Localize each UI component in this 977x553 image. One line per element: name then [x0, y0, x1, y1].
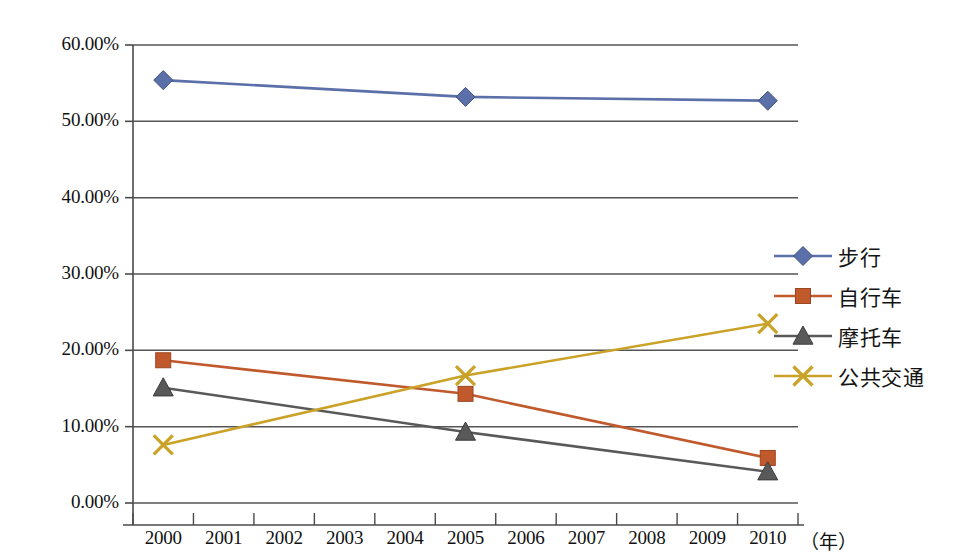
- x-axis-tick-label: 2003: [314, 527, 374, 549]
- y-axis-tick-label: 60.00%: [20, 33, 119, 55]
- data-point-marker: [154, 71, 173, 90]
- legend-item[interactable]: 公共交通: [772, 356, 972, 396]
- y-axis-tick-label: 40.00%: [20, 186, 119, 208]
- x-axis-tick-label: 2006: [496, 527, 556, 549]
- line-chart: 60.00%50.00%40.00%30.00%20.00%10.00%0.00…: [0, 0, 977, 553]
- data-point-marker: [758, 91, 777, 110]
- legend-label: 步行: [838, 241, 881, 271]
- axis-lines: [123, 45, 804, 525]
- data-series: [153, 71, 778, 480]
- y-axis-tick-label: 20.00%: [20, 338, 119, 360]
- legend-label: 自行车: [838, 281, 903, 311]
- chart-legend: 步行自行车摩托车公共交通: [772, 236, 972, 396]
- series-2: [156, 353, 776, 466]
- y-axis-tick-label: 0.00%: [20, 491, 119, 513]
- x-axis-ticks: [133, 513, 798, 525]
- square-marker: [772, 276, 834, 316]
- legend-item[interactable]: 步行: [772, 236, 972, 276]
- legend-item[interactable]: 摩托车: [772, 316, 972, 356]
- legend-marker: [796, 289, 811, 304]
- x-axis-tick-label: 2007: [556, 527, 616, 549]
- diamond-marker: [772, 236, 834, 276]
- legend-label: 公共交通: [838, 361, 924, 391]
- x-axis-tick-label: 2005: [435, 527, 495, 549]
- triangle-marker: [772, 316, 834, 356]
- cross-marker: [772, 356, 834, 396]
- x-axis-tick-label: 2002: [254, 527, 314, 549]
- x-axis-tick-label: 2000: [133, 527, 193, 549]
- legend-label: 摩托车: [838, 321, 903, 351]
- data-point-marker: [456, 87, 475, 106]
- x-axis-tick-label: 2001: [193, 527, 253, 549]
- x-axis-tick-label: 2010: [738, 527, 798, 549]
- x-axis-tick-label: 2004: [375, 527, 435, 549]
- y-axis-tick-label: 30.00%: [20, 262, 119, 284]
- x-axis-unit-label: （年）: [800, 527, 857, 553]
- legend-item[interactable]: 自行车: [772, 276, 972, 316]
- y-axis-tick-label: 50.00%: [20, 109, 119, 131]
- x-axis-tick-label: 2008: [617, 527, 677, 549]
- y-axis-ticks: [125, 45, 133, 503]
- x-axis-tick-label: 2009: [677, 527, 737, 549]
- data-point-marker: [458, 386, 473, 401]
- y-axis-tick-label: 10.00%: [20, 415, 119, 437]
- legend-marker: [794, 247, 813, 266]
- data-point-marker: [156, 353, 171, 368]
- series-1: [154, 71, 778, 111]
- data-point-marker: [154, 435, 173, 454]
- data-point-marker: [153, 378, 173, 396]
